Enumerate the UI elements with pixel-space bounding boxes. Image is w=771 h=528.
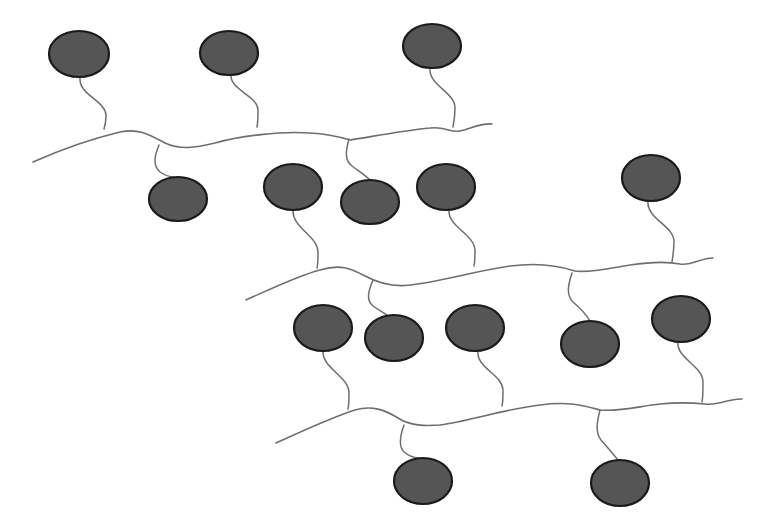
pendant-group-ellipse — [365, 315, 423, 361]
pendant-group-ellipse — [403, 24, 461, 68]
pendant-group-ellipse — [446, 305, 504, 351]
pendant-group-ellipse — [264, 164, 322, 210]
pendant-group-ellipse — [394, 458, 452, 504]
pendant-group-ellipse — [652, 296, 710, 342]
pendant-group-ellipse — [561, 321, 619, 367]
pendant-group-ellipse — [591, 460, 649, 506]
polymer-chains-diagram — [0, 0, 771, 528]
pendant-group-ellipse — [49, 31, 109, 77]
pendant-group-ellipse — [417, 164, 475, 210]
pendant-group-ellipse — [294, 305, 352, 351]
background — [0, 0, 771, 528]
pendant-group-ellipse — [200, 31, 258, 75]
pendant-group-ellipse — [149, 177, 207, 221]
pendant-group-ellipse — [622, 155, 680, 201]
pendant-group-ellipse — [341, 180, 399, 224]
